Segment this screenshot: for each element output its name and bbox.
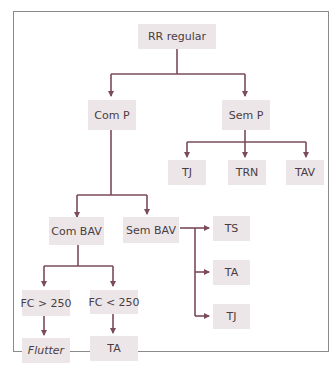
node-tj-sem-p: TJ xyxy=(168,160,206,185)
node-tj-sem-bav: TJ xyxy=(213,304,250,329)
node-ta-sem-bav: TA xyxy=(213,260,250,285)
connector-lines xyxy=(0,0,336,381)
node-fc-gt-250: FC > 250 xyxy=(22,290,70,316)
node-com-p: Com P xyxy=(88,100,136,130)
node-fc-lt-250: FC < 250 xyxy=(90,290,138,314)
node-sem-bav: Sem BAV xyxy=(123,217,179,243)
node-flutter: Flutter xyxy=(22,338,70,363)
node-rr-regular: RR regular xyxy=(138,24,216,49)
node-ta-fc: TA xyxy=(90,336,138,361)
node-ts: TS xyxy=(213,216,250,241)
node-tav: TAV xyxy=(286,160,324,185)
node-sem-p: Sem P xyxy=(222,100,270,130)
node-trn: TRN xyxy=(228,160,266,185)
node-com-bav: Com BAV xyxy=(49,217,104,245)
